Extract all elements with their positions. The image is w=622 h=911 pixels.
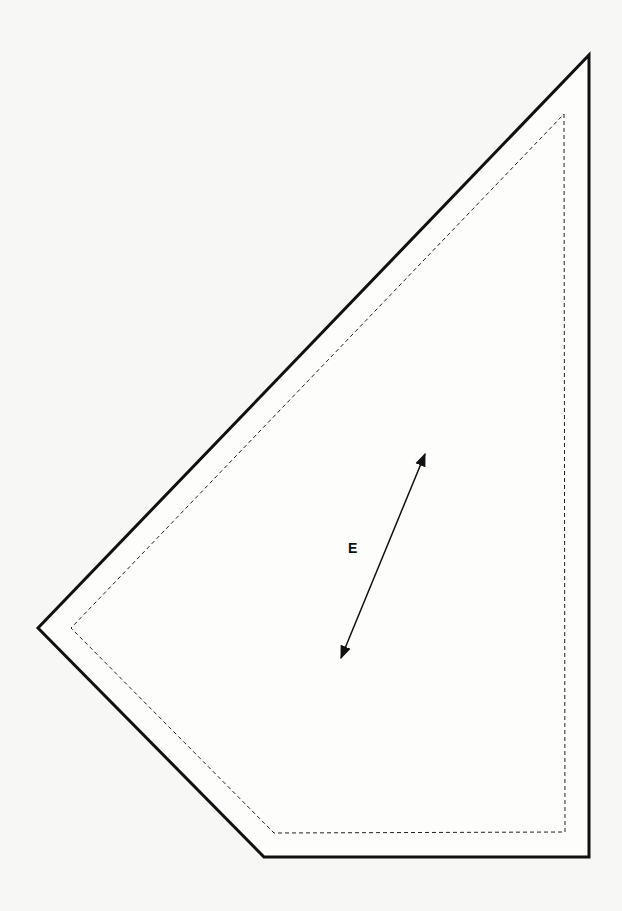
pattern-piece-drawing: [0, 0, 622, 911]
pattern-piece-label: E: [348, 540, 357, 556]
cut-line: [38, 55, 589, 857]
